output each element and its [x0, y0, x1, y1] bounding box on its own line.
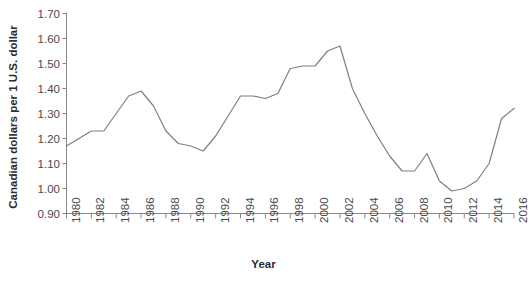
x-tick-label: 1988 — [170, 197, 181, 223]
x-tick-label: 1992 — [220, 197, 231, 223]
x-tick-label: 2014 — [493, 197, 504, 223]
x-tick-label: 1996 — [269, 197, 280, 223]
x-tick-label: 1994 — [245, 197, 256, 223]
x-tick-label: 2016 — [518, 197, 529, 223]
x-tick-label: 2004 — [369, 197, 380, 223]
x-tick-label: 2012 — [468, 197, 479, 223]
x-tick-label: 2010 — [443, 197, 454, 223]
x-tick-label: 1982 — [95, 197, 106, 223]
x-tick-label: 1984 — [120, 197, 131, 223]
x-tick-label: 1990 — [195, 197, 206, 223]
x-tick-label: 1986 — [145, 197, 156, 223]
x-axis-title: Year — [0, 258, 527, 270]
x-tick-label: 2008 — [419, 197, 430, 223]
x-tick-label: 1998 — [294, 197, 305, 223]
x-tick-label: 2002 — [344, 197, 355, 223]
x-tick-label: 2006 — [394, 197, 405, 223]
x-tick-label: 2000 — [319, 197, 330, 223]
x-tick-label: 1980 — [71, 197, 82, 223]
